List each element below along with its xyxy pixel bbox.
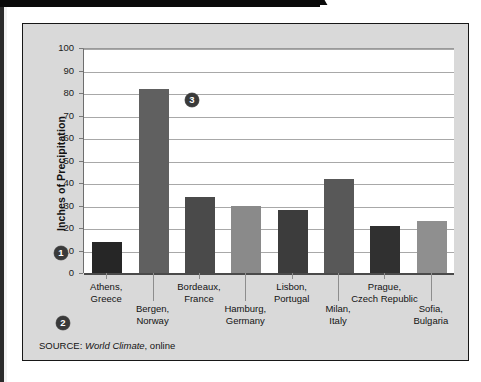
- x-axis-label-city: Bordeaux,: [149, 281, 249, 293]
- x-axis-label-city: Hamburg,: [195, 303, 295, 315]
- gridline: [84, 72, 454, 73]
- y-axis-tick-label: 70: [44, 111, 74, 121]
- x-axis-leader-line: [106, 273, 107, 279]
- x-axis-leader-line: [384, 273, 385, 279]
- y-axis-tick-label: 60: [44, 133, 74, 143]
- x-axis-label-city: Milan,: [288, 303, 388, 315]
- plot-area: [83, 48, 454, 273]
- x-axis-category-label: Prague,Czech Republic: [334, 281, 434, 304]
- source-suffix: , online: [145, 340, 176, 351]
- y-axis-tick-mark: [79, 251, 83, 252]
- callout-marker-1: 1: [54, 246, 68, 260]
- y-axis-tick-mark: [79, 71, 83, 72]
- x-axis-label-city: Athens,: [56, 281, 156, 293]
- y-axis-tick-label: 80: [44, 88, 74, 98]
- callout-marker-2: 2: [56, 316, 70, 330]
- bar: [139, 89, 169, 274]
- callout-marker-3: 3: [185, 93, 199, 107]
- y-axis-tick-mark: [79, 228, 83, 229]
- x-axis-label-city: Prague,: [334, 281, 434, 293]
- y-axis-tick-mark: [79, 116, 83, 117]
- y-axis-tick-mark: [79, 161, 83, 162]
- y-axis-tick-mark: [79, 93, 83, 94]
- x-axis-category-label: Bergen,Norway: [103, 303, 203, 326]
- y-axis-tick-label: 40: [44, 178, 74, 188]
- x-axis-leader-line: [292, 273, 293, 279]
- bar: [278, 210, 308, 273]
- bar: [185, 197, 215, 274]
- x-axis-category-label: Milan,Italy: [288, 303, 388, 326]
- y-axis-tick-label: 50: [44, 156, 74, 166]
- y-axis-tick-label: 30: [44, 201, 74, 211]
- bar: [92, 242, 122, 274]
- x-axis-label-country: Bulgaria: [381, 315, 481, 327]
- chart-panel: Inches of Precipitation 0102030405060708…: [22, 23, 469, 361]
- x-axis-label-city: Bergen,: [103, 303, 203, 315]
- source-title: World Climate: [85, 340, 145, 351]
- bar: [417, 221, 447, 273]
- x-axis-label-country: Italy: [288, 315, 388, 327]
- x-axis-label-country: Germany: [195, 315, 295, 327]
- x-axis-category-label: Athens,Greece: [56, 281, 156, 304]
- gridline: [84, 49, 454, 50]
- x-axis-leader-line: [431, 273, 432, 301]
- bar: [324, 179, 354, 274]
- y-axis-tick-mark: [79, 138, 83, 139]
- y-axis-tick-label: 90: [44, 66, 74, 76]
- y-axis-tick-mark: [79, 206, 83, 207]
- source-prefix: SOURCE:: [39, 340, 85, 351]
- x-axis-category-label: Bordeaux,France: [149, 281, 249, 304]
- x-axis-category-label: Sofia,Bulgaria: [381, 303, 481, 326]
- y-axis-tick-mark: [79, 183, 83, 184]
- page-edge-left-inner-artifact: [4, 7, 7, 382]
- bar: [370, 226, 400, 273]
- source-note: SOURCE: World Climate, online: [39, 340, 175, 351]
- y-axis-tick-label: 20: [44, 223, 74, 233]
- x-axis-leader-line: [199, 273, 200, 279]
- page-edge-top-artifact: [0, 0, 320, 7]
- x-axis-label-city: Lisbon,: [242, 281, 342, 293]
- x-axis-category-label: Hamburg,Germany: [195, 303, 295, 326]
- y-axis-tick-label: 100: [44, 43, 74, 53]
- x-axis-category-label: Lisbon,Portugal: [242, 281, 342, 304]
- y-axis-tick-mark: [79, 273, 83, 274]
- y-axis-tick-mark: [79, 48, 83, 49]
- x-axis-label-city: Sofia,: [381, 303, 481, 315]
- y-axis-tick-label: 0: [44, 268, 74, 278]
- x-axis-line: [84, 273, 454, 275]
- x-axis-label-country: Norway: [103, 315, 203, 327]
- bar: [231, 206, 261, 274]
